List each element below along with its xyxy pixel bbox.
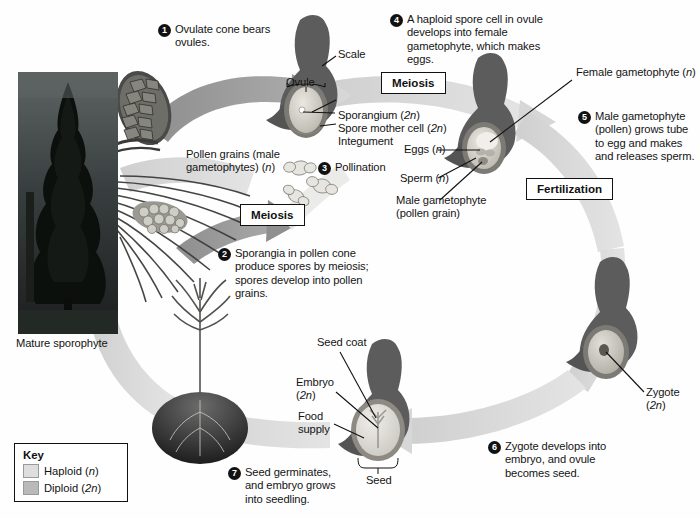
label-seed-coat: Seed coat: [317, 336, 366, 349]
cone-scale-seed: [338, 339, 410, 474]
step-2-bullet: 2: [218, 248, 231, 261]
label-sperm: Sperm (n): [400, 172, 449, 185]
step-4-text: A haploid spore cell in ovule develops i…: [407, 13, 546, 67]
step-7-text: Seed germinates, and embryo grows into s…: [245, 466, 350, 506]
label-integument: Integument: [338, 135, 393, 148]
step-5-bullet: 5: [578, 111, 591, 124]
label-scale: Scale: [338, 48, 366, 61]
step-5-text: Male gametophyte (pollen) grows tube to …: [595, 110, 696, 164]
step-2-text: Sporangia in pollen cone produce spores …: [235, 247, 396, 301]
fertilization-box: Fertilization: [526, 178, 613, 200]
label-sporangium: Sporangium (2n): [338, 109, 420, 122]
label-male-gametophyte: Male gametophyte (pollen grain): [396, 194, 500, 221]
key-legend: Key Haploid (n) Diploid (2n): [14, 443, 128, 502]
step-3-bullet: 3: [318, 162, 331, 175]
step-6: 6 Zygote develops into embryo, and ovule…: [488, 440, 612, 480]
step-7: 7 Seed germinates, and embryo grows into…: [228, 466, 350, 506]
label-embryo: Embryo(2n): [296, 376, 334, 403]
step-3-text: Pollination: [335, 161, 386, 174]
photo-caption: Mature sporophyte: [16, 337, 136, 350]
haploid-swatch: [23, 464, 39, 478]
step-4-bullet: 4: [390, 14, 403, 27]
cone-scale-zygote: [566, 257, 638, 379]
label-food-supply: Foodsupply: [298, 410, 330, 437]
seedling-illustration: [152, 278, 248, 464]
label-seed: Seed: [366, 474, 392, 487]
label-zygote: Zygote(2n): [646, 386, 680, 413]
cone-scale-female-gametophyte: [444, 53, 516, 174]
step-6-bullet: 6: [488, 441, 501, 454]
label-spore-mother-cell: Spore mother cell (2n): [338, 122, 447, 135]
step-6-text: Zygote develops into embryo, and ovule b…: [505, 440, 612, 480]
step-1-text: Ovulate cone bears ovules.: [175, 23, 278, 50]
haploid-label: Haploid (n): [44, 465, 99, 477]
step-1: 1 Ovulate cone bears ovules.: [158, 23, 278, 50]
label-pollen-grains: Pollen grains (male gametophytes) (n): [186, 148, 298, 175]
key-entry-haploid: Haploid (n): [23, 464, 119, 478]
meiosis-box-lower: Meiosis: [240, 204, 305, 226]
step-4: 4 A haploid spore cell in ovule develops…: [390, 13, 546, 67]
key-entry-diploid: Diploid (2n): [23, 481, 119, 495]
meiosis-box-upper: Meiosis: [381, 72, 446, 94]
diploid-swatch: [23, 481, 39, 495]
step-2: 2 Sporangia in pollen cone produce spore…: [218, 247, 396, 301]
key-title: Key: [23, 449, 119, 461]
label-eggs: Eggs (n): [404, 143, 446, 156]
diploid-label: Diploid (2n): [44, 482, 101, 494]
label-ovule: Ovule: [286, 76, 315, 89]
mature-sporophyte-photo: [18, 72, 118, 334]
step-7-bullet: 7: [228, 467, 241, 480]
pine-life-cycle-diagram: Mature sporophyte 1 Ovulate cone bears o…: [0, 0, 700, 518]
label-female-gametophyte: Female gametophyte (n): [576, 66, 696, 79]
step-5: 5 Male gametophyte (pollen) grows tube t…: [578, 110, 696, 164]
step-1-bullet: 1: [158, 24, 171, 37]
